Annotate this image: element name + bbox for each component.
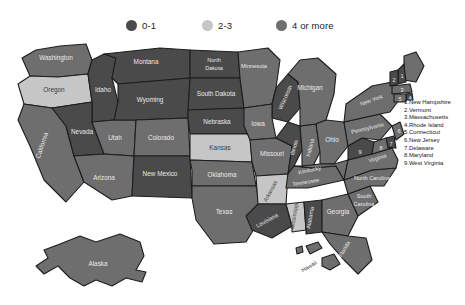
key-list-item: 4.Rhode Island	[404, 122, 451, 130]
circle-icon	[276, 20, 287, 31]
label-south-carolina-2: Carolina	[354, 201, 376, 207]
label-michigan: Michigan	[297, 84, 323, 92]
circle-icon	[202, 20, 213, 31]
label-minnesota: Minnesota	[241, 63, 268, 69]
state-north-dakota[interactable]	[190, 50, 240, 78]
label-oregon: Oregon	[43, 86, 65, 94]
label-montana: Montana	[134, 58, 159, 65]
label-new-jersey-number: 6	[397, 128, 400, 134]
label-utah: Utah	[108, 134, 122, 141]
label-washington: Washington	[39, 54, 73, 62]
key-list-item: 5.Connecticut	[404, 129, 451, 137]
key-list-item: 2.Vermont	[404, 107, 451, 115]
label-wyoming: Wyoming	[137, 96, 164, 104]
label-kansas: Kansas	[209, 144, 230, 151]
label-ohio: Ohio	[325, 136, 339, 143]
label-idaho: Idaho	[95, 86, 111, 93]
label-south-carolina: South	[357, 193, 372, 199]
label-nevada: Nevada	[71, 128, 93, 135]
legend-label-2-3: 2-3	[218, 20, 232, 31]
legend-item-2-3: 2-3	[202, 20, 232, 31]
northeast-state-key-list: 1.New Hampshire 2.Vermont 3.Massachusett…	[404, 99, 451, 167]
label-georgia: Georgia	[327, 208, 350, 216]
label-arizona: Arizona	[93, 174, 115, 181]
label-north-dakota: North	[207, 57, 221, 63]
key-list-item: 7.Delaware	[404, 145, 451, 153]
circle-icon	[126, 20, 137, 31]
key-list-item: 3.Massachusetts	[404, 114, 451, 122]
us-choropleth-map-figure: 0-1 2-3 4 or more	[0, 0, 465, 305]
label-north-carolina: North Carolina	[354, 175, 391, 181]
label-texas: Texas	[216, 208, 233, 215]
legend-item-4-or-more: 4 or more	[276, 20, 334, 31]
legend-item-0-1: 0-1	[126, 20, 156, 31]
label-alaska: Alaska	[88, 260, 108, 267]
label-north-dakota-2: Dakota	[205, 65, 224, 71]
key-list-item: 6.New Jersey	[404, 137, 451, 145]
label-new-mexico: New Mexico	[143, 170, 178, 177]
label-massachusetts-number: 3	[400, 87, 403, 93]
label-oklahoma: Oklahoma	[207, 171, 237, 178]
state-maine[interactable]	[404, 52, 424, 82]
key-list-item: 8.Maryland	[404, 152, 451, 160]
map-canvas: Washington Oregon Idaho Montana Wyoming …	[0, 30, 465, 305]
label-new-hampshire-number: 1	[400, 73, 403, 79]
label-south-dakota: South Dakota	[197, 90, 236, 97]
label-missouri: Missouri	[260, 150, 284, 157]
legend-label-0-1: 0-1	[142, 20, 156, 31]
label-vermont-number: 2	[392, 77, 395, 83]
label-nebraska: Nebraska	[203, 118, 231, 125]
label-maryland-number: 8	[379, 145, 382, 151]
key-list-item: 1.New Hampshire	[404, 99, 451, 107]
state-missouri[interactable]	[250, 138, 292, 176]
label-hawaii: Hawaii	[300, 259, 318, 273]
legend-label-4-or-more: 4 or more	[292, 20, 334, 31]
key-list-item: 9.West Virginia	[404, 160, 451, 168]
label-west-virginia-number: 9	[358, 149, 361, 155]
label-connecticut-number: 5	[398, 96, 401, 102]
label-iowa: Iowa	[251, 120, 265, 127]
state-new-mexico[interactable]	[132, 156, 192, 198]
label-delaware-number: 7	[389, 141, 392, 147]
label-colorado: Colorado	[148, 134, 174, 141]
